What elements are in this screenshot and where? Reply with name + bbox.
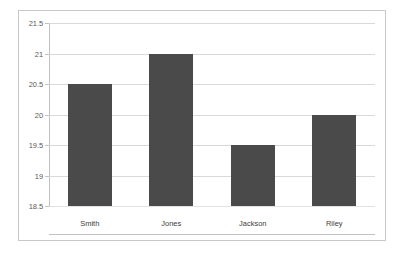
y-axis-tick-label: 21.5 bbox=[29, 19, 43, 28]
x-axis-tick-label: Jones bbox=[161, 219, 181, 228]
y-axis-tick-label: 20 bbox=[35, 110, 43, 119]
y-tick-mark bbox=[45, 54, 49, 55]
y-tick-mark bbox=[45, 145, 49, 146]
x-axis-tick-label: Riley bbox=[326, 219, 343, 228]
y-axis-tick-label: 20.5 bbox=[29, 80, 43, 89]
y-tick-mark bbox=[45, 23, 49, 24]
y-axis-tick-label: 21 bbox=[35, 49, 43, 58]
x-axis-tick-label: Smith bbox=[80, 219, 99, 228]
y-axis-tick-label: 19.5 bbox=[29, 141, 43, 150]
gridline bbox=[49, 23, 375, 24]
bar bbox=[231, 145, 275, 206]
bar bbox=[149, 54, 193, 207]
gridline bbox=[49, 54, 375, 55]
y-tick-mark bbox=[45, 176, 49, 177]
x-axis-tick-labels: SmithJonesJacksonRiley bbox=[49, 206, 375, 234]
x-axis-bottom-line bbox=[49, 234, 375, 235]
bar bbox=[312, 115, 356, 207]
y-tick-mark bbox=[45, 84, 49, 85]
bar bbox=[68, 84, 112, 206]
y-axis-tick-label: 19 bbox=[35, 171, 43, 180]
plot-area: 18.51919.52020.52121.5 bbox=[49, 23, 375, 206]
y-axis-tick-label: 18.5 bbox=[29, 202, 43, 211]
x-axis-tick-label: Jackson bbox=[239, 219, 267, 228]
y-tick-mark bbox=[45, 115, 49, 116]
chart-frame: 18.51919.52020.52121.5 SmithJonesJackson… bbox=[18, 10, 386, 241]
